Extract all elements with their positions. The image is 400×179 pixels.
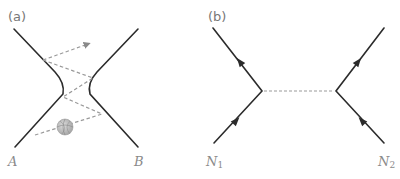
basketball-icon: [57, 119, 73, 135]
panel-a: (a) A B: [7, 9, 144, 169]
panel-b: (b) N1 N2: [205, 9, 395, 170]
nucleon-2-line: [336, 28, 384, 143]
arrow-icon-n2-incoming: [356, 115, 367, 126]
diagram-canvas: (a) A B (b): [0, 0, 400, 179]
worldline-b-right: [89, 29, 138, 147]
trajectory-arrow: [43, 44, 88, 60]
endpoint-b-label: B: [133, 154, 144, 169]
worldline-a-left: [14, 29, 63, 147]
panel-b-label: (b): [208, 9, 226, 24]
arrow-icon-n1-incoming: [231, 115, 242, 126]
panel-a-label: (a): [8, 9, 26, 24]
endpoint-n2-label: N2: [377, 154, 395, 170]
nucleon-1-line: [213, 28, 262, 143]
endpoint-a-label: A: [7, 154, 17, 169]
endpoint-n1-label: N1: [205, 154, 223, 170]
